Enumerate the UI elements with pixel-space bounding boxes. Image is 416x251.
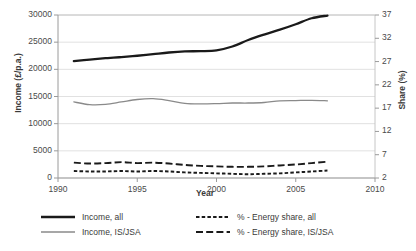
y-axis-right-tick-label: 7 <box>382 149 412 159</box>
y-axis-left-tick-label: 5000 <box>6 145 52 155</box>
y-axis-left-tick-label: 30000 <box>6 9 52 19</box>
y-axis-right-tick-label: 32 <box>382 32 412 42</box>
legend-item-label: Income, all <box>82 212 123 222</box>
series-line-1 <box>74 99 328 105</box>
legend-item-label: Income, IS/JSA <box>82 227 141 237</box>
x-axis-tick-label: 1990 <box>38 184 78 194</box>
y-axis-right-tick-label: 22 <box>382 79 412 89</box>
y-axis-left-tick-label: 20000 <box>6 63 52 73</box>
legend-item-label: % - Energy share, all <box>237 212 316 222</box>
y-axis-right-tick-label: 27 <box>382 56 412 66</box>
chart-container: Income (£/p.a.) Share (%) Year 050001000… <box>0 0 416 251</box>
y-axis-left-tick-label: 25000 <box>6 36 52 46</box>
legend-item-label: % - Energy share, IS/JSA <box>237 227 333 237</box>
legend-swatch-line-icon <box>40 212 76 222</box>
legend-swatch-line-icon <box>195 227 231 237</box>
y-axis-right-tick-label: 17 <box>382 102 412 112</box>
y-axis-right-tick-label: 37 <box>382 9 412 19</box>
y-axis-left-tick-label: 0 <box>6 172 52 182</box>
legend-swatch-line-icon <box>195 212 231 222</box>
x-axis-tick-label: 1995 <box>117 184 157 194</box>
x-axis-tick-label: 2010 <box>355 184 395 194</box>
series-line-3 <box>74 162 328 167</box>
legend-item[interactable]: % - Energy share, all <box>195 212 316 222</box>
y-axis-left-tick-label: 10000 <box>6 118 52 128</box>
y-axis-left-tick-label: 15000 <box>6 91 52 101</box>
x-axis-tick-label: 2000 <box>197 184 237 194</box>
series-line-0 <box>74 16 328 62</box>
x-axis-tick-label: 2005 <box>276 184 316 194</box>
legend-swatch-line-icon <box>40 227 76 237</box>
series-line-2 <box>74 171 328 175</box>
y-axis-right-tick-label: 12 <box>382 125 412 135</box>
legend-item[interactable]: Income, IS/JSA <box>40 227 141 237</box>
legend-item[interactable]: Income, all <box>40 212 123 222</box>
legend-item[interactable]: % - Energy share, IS/JSA <box>195 227 333 237</box>
y-axis-right-tick-label: 2 <box>382 172 412 182</box>
